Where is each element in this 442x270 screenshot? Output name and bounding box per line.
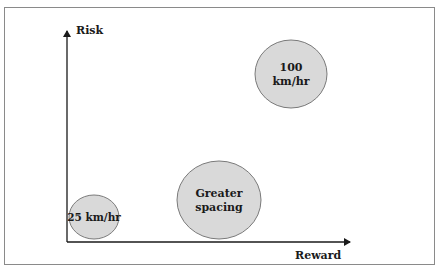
bubble-label-line: 100 <box>280 61 303 74</box>
bubble-greater-spacing: Greater spacing <box>177 161 261 239</box>
y-axis-label: Risk <box>76 24 104 37</box>
bubble-label-line: Greater <box>195 187 242 200</box>
bubble-25-kmhr: 25 km/hr <box>67 195 121 239</box>
bubble-100-kmhr: 100 km/hr <box>255 40 327 108</box>
x-axis-label: Reward <box>295 249 342 262</box>
risk-reward-diagram: Risk Reward 100 km/hr Greater spacing 25… <box>0 0 442 270</box>
bubble-label-line: km/hr <box>272 75 309 88</box>
bubble-label-line: spacing <box>195 201 243 214</box>
bubble-label-line: 25 km/hr <box>67 211 121 223</box>
